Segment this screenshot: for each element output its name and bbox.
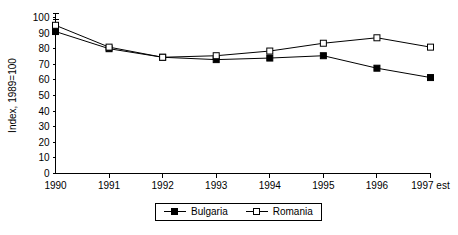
data-point-romania — [53, 22, 59, 28]
y-axis-tick-label: 0 — [44, 168, 50, 179]
data-point-romania — [160, 54, 166, 60]
x-axis-tick-label: 1995 — [312, 180, 335, 191]
x-axis-tick-label: 1993 — [205, 180, 228, 191]
legend-item-romania: Romania — [246, 206, 313, 217]
x-axis-tick-label: 1990 — [44, 180, 67, 191]
y-axis-tick-label: 20 — [38, 137, 50, 148]
data-point-romania — [320, 40, 326, 46]
chart-legend: Bulgaria Romania — [155, 203, 322, 221]
data-point-bulgaria — [428, 75, 434, 81]
y-axis: 0102030405060708090100 — [33, 12, 59, 179]
data-series-group — [53, 19, 434, 81]
x-axis-tick-label: 1996 — [366, 180, 389, 191]
legend-item-bulgaria: Bulgaria — [164, 206, 228, 217]
y-axis-tick-label: 60 — [38, 74, 50, 85]
line-chart-plot: 0102030405060708090100 19901991199219931… — [0, 0, 458, 235]
data-point-bulgaria — [267, 55, 273, 61]
data-point-romania — [267, 48, 273, 54]
legend-marker-filled-square-icon — [164, 207, 186, 216]
legend-marker-open-square-icon — [246, 207, 268, 216]
y-axis-tick-label: 70 — [38, 59, 50, 70]
data-point-romania — [374, 35, 380, 41]
y-axis-tick-label: 80 — [38, 43, 50, 54]
y-axis-title: Index, 1989=100 — [7, 58, 18, 133]
legend-label-bulgaria: Bulgaria — [191, 206, 228, 217]
chart-container: 0102030405060708090100 19901991199219931… — [0, 0, 458, 235]
y-axis-tick-label: 100 — [33, 12, 50, 23]
x-axis-tick-label: 1992 — [152, 180, 175, 191]
data-point-romania — [428, 44, 434, 50]
data-point-bulgaria — [53, 29, 59, 35]
x-axis: 19901991199219931994199519961997 est — [44, 174, 450, 191]
data-point-bulgaria — [374, 65, 380, 71]
y-axis-tick-label: 90 — [38, 28, 50, 39]
y-axis-tick-label: 40 — [38, 106, 50, 117]
legend-label-romania: Romania — [273, 206, 313, 217]
x-axis-tick-label: 1991 — [98, 180, 121, 191]
x-axis-tick-label: 1994 — [259, 180, 282, 191]
data-point-romania — [106, 44, 112, 50]
data-point-romania — [213, 53, 219, 59]
y-axis-tick-label: 30 — [38, 121, 50, 132]
data-point-bulgaria — [320, 53, 326, 59]
series-line-romania — [56, 25, 431, 57]
x-axis-tick-label: 1997 est — [411, 180, 450, 191]
y-axis-tick-label: 50 — [38, 90, 50, 101]
y-axis-title-text: Index, 1989=100 — [7, 58, 18, 133]
y-axis-tick-label: 10 — [38, 152, 50, 163]
